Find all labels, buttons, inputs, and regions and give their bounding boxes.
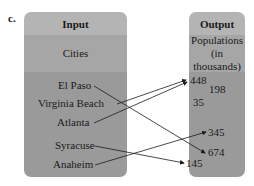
arrow-syracuse-145	[95, 146, 184, 163]
arrow-el-paso-674	[94, 86, 205, 153]
arrow-atlanta-448	[94, 82, 187, 123]
mapping-arrows	[0, 0, 254, 186]
arrow-anaheim-345	[95, 132, 206, 165]
arrow-virginia-beach-448	[117, 80, 186, 104]
